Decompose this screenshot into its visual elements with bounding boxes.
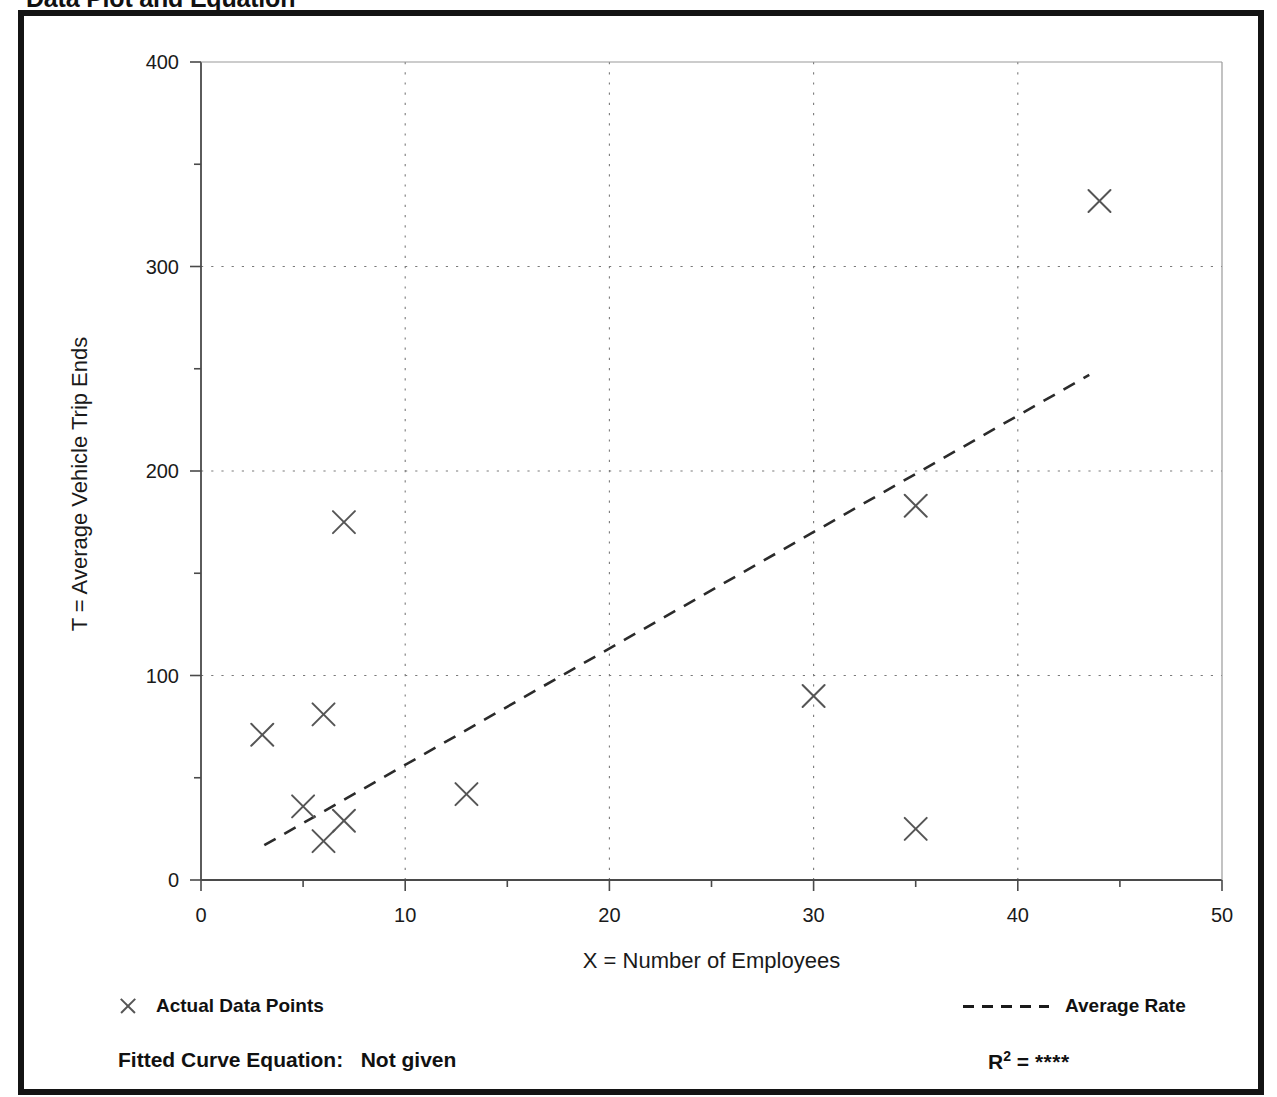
ticks-layer <box>190 62 1222 891</box>
legend-item-actual-data-points: Actual Data Points <box>118 995 324 1017</box>
x-axis-tick-label: 20 <box>598 904 620 927</box>
y-axis-title: T = Average Vehicle Trip Ends <box>67 324 93 644</box>
y-axis-tick-label: 100 <box>91 664 179 687</box>
equation-label: Fitted Curve Equation: <box>118 1048 343 1071</box>
y-axis-tick-label: 400 <box>91 51 179 74</box>
y-axis-tick-label: 300 <box>91 255 179 278</box>
r-squared-value: **** <box>1035 1050 1070 1073</box>
data-point-marker <box>251 724 273 746</box>
trend-line-average-rate <box>264 375 1089 845</box>
legend-label-average-rate: Average Rate <box>1065 995 1186 1017</box>
data-point-marker <box>333 511 355 533</box>
x-axis-tick-label: 50 <box>1211 904 1233 927</box>
dashed-line-icon <box>963 1005 1049 1008</box>
chart-plot-area <box>0 0 1277 1097</box>
data-point-marker <box>333 810 355 832</box>
y-axis-tick-label: 200 <box>91 460 179 483</box>
r-squared-exponent: 2 <box>1003 1048 1011 1064</box>
trend-line-segment <box>264 375 1089 845</box>
data-point-marker <box>292 795 314 817</box>
x-axis-tick-label: 10 <box>394 904 416 927</box>
data-point-marker <box>313 830 335 852</box>
legend-item-average-rate: Average Rate <box>963 995 1186 1017</box>
data-point-marker <box>905 818 927 840</box>
x-axis-tick-label: 0 <box>195 904 206 927</box>
equation-value: Not given <box>361 1048 457 1071</box>
data-point-marker <box>905 495 927 517</box>
fitted-curve-equation: Fitted Curve Equation: Not given <box>118 1048 456 1072</box>
data-point-marker <box>1088 190 1110 212</box>
x-axis-title: X = Number of Employees <box>201 948 1222 974</box>
r-squared-label: R <box>988 1050 1003 1073</box>
legend-label-actual-data-points: Actual Data Points <box>156 995 324 1017</box>
data-point-markers <box>251 190 1110 852</box>
r-squared-equals: = <box>1017 1050 1029 1073</box>
grid-layer <box>201 62 1222 880</box>
y-axis-tick-label: 0 <box>91 869 179 892</box>
r-squared-annotation: R2 = **** <box>988 1048 1070 1074</box>
x-axis-tick-label: 40 <box>1007 904 1029 927</box>
x-axis-tick-label: 30 <box>802 904 824 927</box>
data-point-marker <box>803 685 825 707</box>
data-point-marker <box>313 703 335 725</box>
x-marker-icon <box>118 996 138 1016</box>
data-point-marker <box>455 783 477 805</box>
